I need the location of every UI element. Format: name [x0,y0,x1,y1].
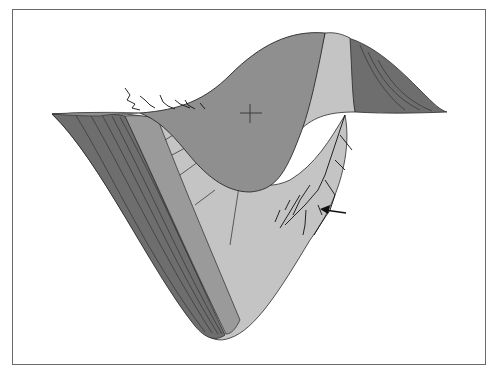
surface-figure [0,0,498,378]
dark-tail-region [345,37,447,113]
